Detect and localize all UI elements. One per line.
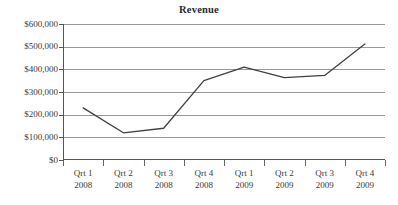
x-axis-category-label: Qrt 32009 <box>305 168 345 202</box>
x-axis-category-label: Qrt 22009 <box>264 168 304 202</box>
y-axis-tick-label: $300,000 <box>0 88 58 97</box>
series-polyline-revenue <box>83 44 365 133</box>
x-axis-tick <box>103 160 104 166</box>
x-axis-tick <box>63 160 64 166</box>
x-axis-label-line: 2009 <box>264 180 304 192</box>
x-axis-label-line: 2009 <box>305 180 345 192</box>
y-axis-tick-label: $600,000 <box>0 20 58 29</box>
y-axis-tick-label: $400,000 <box>0 65 58 74</box>
x-axis-label-line: Qrt 3 <box>144 168 184 180</box>
x-axis-label-line: Qrt 4 <box>184 168 224 180</box>
x-axis-category-label: Qrt 42009 <box>345 168 385 202</box>
plot-area <box>63 24 385 160</box>
x-axis-label-line: Qrt 1 <box>63 168 103 180</box>
x-axis-ticks <box>63 160 385 166</box>
x-axis-label-line: Qrt 1 <box>224 168 264 180</box>
x-axis-label-line: Qrt 2 <box>264 168 304 180</box>
x-axis-category-label: Qrt 12008 <box>63 168 103 202</box>
y-axis-tick-label: $0 <box>0 156 58 165</box>
x-axis-tick <box>264 160 265 166</box>
chart-title: Revenue <box>0 4 398 15</box>
x-axis-label-line: 2008 <box>144 180 184 192</box>
revenue-line-chart: Revenue $0$100,000$200,000$300,000$400,0… <box>0 0 398 205</box>
x-axis-label-line: 2008 <box>184 180 224 192</box>
x-axis-tick <box>385 160 386 166</box>
x-axis-labels: Qrt 12008Qrt 22008Qrt 32008Qrt 42008Qrt … <box>63 168 385 202</box>
x-axis-label-line: 2009 <box>224 180 264 192</box>
x-axis-label-line: Qrt 4 <box>345 168 385 180</box>
x-axis-label-line: Qrt 3 <box>305 168 345 180</box>
x-axis-tick <box>144 160 145 166</box>
x-axis-category-label: Qrt 32008 <box>144 168 184 202</box>
x-axis-tick <box>224 160 225 166</box>
y-axis-tick-label: $200,000 <box>0 110 58 119</box>
x-axis-tick <box>305 160 306 166</box>
y-axis-tick-label: $100,000 <box>0 133 58 142</box>
x-axis-label-line: 2008 <box>103 180 143 192</box>
x-axis-category-label: Qrt 42008 <box>184 168 224 202</box>
x-axis-tick <box>184 160 185 166</box>
y-axis-tick-label: $500,000 <box>0 42 58 51</box>
revenue-series-line <box>63 24 385 160</box>
x-axis-category-label: Qrt 22008 <box>103 168 143 202</box>
x-axis-category-label: Qrt 12009 <box>224 168 264 202</box>
x-axis-label-line: 2009 <box>345 180 385 192</box>
x-axis-label-line: Qrt 2 <box>103 168 143 180</box>
x-axis-tick <box>345 160 346 166</box>
x-axis-label-line: 2008 <box>63 180 103 192</box>
